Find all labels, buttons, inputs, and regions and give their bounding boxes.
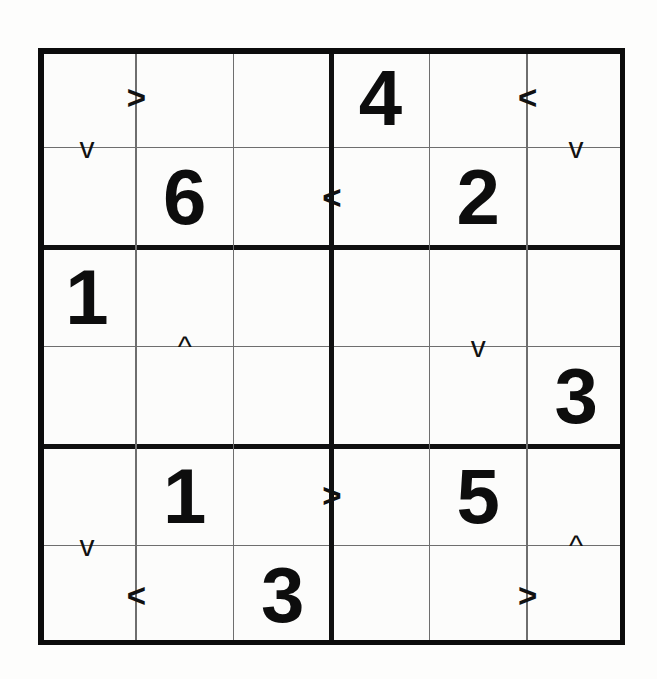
- cell-r1-c3[interactable]: [234, 48, 332, 148]
- cell-rule-v-1: [135, 48, 137, 645]
- cell-r4-c1[interactable]: [38, 347, 136, 447]
- inequality-marker-v-c6-r5r6: ^: [559, 529, 593, 563]
- inequality-marker-v-c2-r3r4: ^: [168, 330, 202, 364]
- inequality-marker-h-r1-c5c6: <: [510, 81, 544, 115]
- cell-r2-c2[interactable]: 6: [136, 148, 234, 248]
- inequality-marker-h-r1-c1c2: >: [119, 81, 153, 115]
- grid-border-top: [38, 48, 625, 54]
- puzzle-page: 46213153 >v<v<^v>v^<>: [0, 0, 657, 679]
- given-digit: 3: [554, 357, 597, 435]
- given-digit: 3: [261, 556, 304, 634]
- given-digit: 2: [457, 158, 500, 236]
- grid-border-bottom: [38, 640, 625, 646]
- inequality-marker-h-r6-c1c2: <: [119, 578, 153, 612]
- cell-r6-c3[interactable]: 3: [234, 546, 332, 646]
- cell-rule-v-4: [429, 48, 431, 645]
- inequality-marker-v-c6-r1r2: v: [559, 131, 593, 165]
- cell-r3-c6[interactable]: [527, 247, 625, 347]
- given-digit: 4: [359, 59, 402, 137]
- inequality-marker-v-c1-r1r2: v: [70, 131, 104, 165]
- given-digit: 6: [163, 158, 206, 236]
- cell-r5-c5[interactable]: 5: [429, 446, 527, 546]
- cell-r4-c3[interactable]: [234, 347, 332, 447]
- cell-r4-c6[interactable]: 3: [527, 347, 625, 447]
- cell-r4-c4[interactable]: [332, 347, 430, 447]
- cell-rule-v-2: [233, 48, 235, 645]
- inequality-marker-h-r2-c3c4: <: [315, 180, 349, 214]
- given-digit: 5: [457, 457, 500, 535]
- given-digit: 1: [65, 258, 108, 336]
- cell-r1-c4[interactable]: 4: [332, 48, 430, 148]
- cell-r6-c4[interactable]: [332, 546, 430, 646]
- cell-r5-c2[interactable]: 1: [136, 446, 234, 546]
- inequality-marker-h-r6-c5c6: >: [510, 578, 544, 612]
- box-rule-v-3: [329, 48, 334, 645]
- cell-rule-v-5: [526, 48, 528, 645]
- inequality-marker-v-c1-r5r6: v: [70, 529, 104, 563]
- grid-border-left: [38, 48, 44, 645]
- cell-r3-c1[interactable]: 1: [38, 247, 136, 347]
- inequality-marker-v-c5-r3r4: v: [461, 330, 495, 364]
- given-digit: 1: [163, 457, 206, 535]
- cell-r2-c5[interactable]: 2: [429, 148, 527, 248]
- inequality-marker-h-r5-c3c4: >: [315, 479, 349, 513]
- cell-r3-c3[interactable]: [234, 247, 332, 347]
- grid-border-right: [620, 48, 626, 645]
- cell-r3-c4[interactable]: [332, 247, 430, 347]
- puzzle-grid[interactable]: 46213153 >v<v<^v>v^<>: [38, 48, 625, 645]
